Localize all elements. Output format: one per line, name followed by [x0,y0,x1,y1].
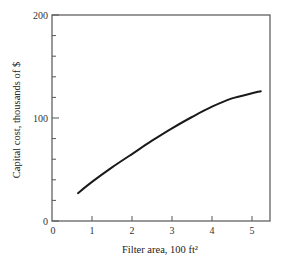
x-tick-label: 1 [90,225,95,236]
chart: 0100200 012345 Capital cost, thousands o… [0,0,287,261]
x-tick-label: 4 [210,225,215,236]
y-axis-ticks: 0100200 [33,10,59,227]
x-tick-label: 5 [250,225,255,236]
y-tick-label: 200 [33,10,48,21]
plot-border [52,15,270,221]
y-axis-label: Capital cost, thousands of $ [11,62,22,178]
x-tick-label: 3 [170,225,175,236]
x-axis-label: Filter area, 100 ft² [122,244,198,255]
y-tick-label: 100 [33,113,48,124]
x-tick-label: 0 [51,225,56,236]
data-line [78,91,261,193]
x-axis-ticks: 012345 [51,216,255,236]
plot-frame [52,15,270,221]
y-tick-label: 0 [43,216,48,227]
x-tick-label: 2 [130,225,135,236]
